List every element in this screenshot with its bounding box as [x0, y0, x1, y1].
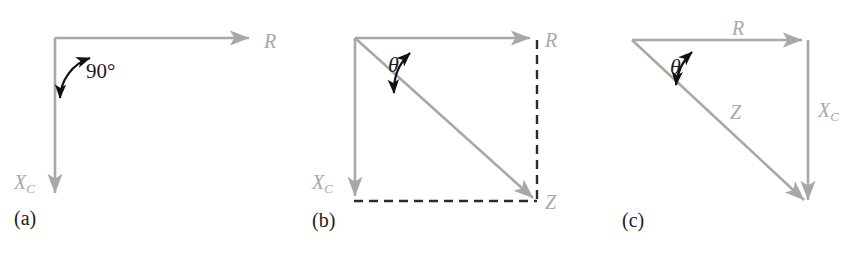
- label-angle-90: 90°: [86, 61, 115, 82]
- caption-a: (a): [14, 208, 36, 228]
- caption-b: (b): [312, 210, 335, 230]
- label-angle-theta: θ: [670, 56, 681, 78]
- label-z: Z: [545, 192, 556, 212]
- panel-c: R XC Z θ (c): [580, 0, 848, 256]
- label-xc: XC: [818, 100, 839, 123]
- label-xc: XC: [14, 172, 35, 195]
- label-r: R: [732, 18, 744, 38]
- label-angle-theta: θ: [388, 54, 399, 76]
- vector-z: [355, 38, 533, 198]
- caption-c: (c): [622, 210, 644, 230]
- label-z: Z: [730, 102, 741, 122]
- vector-z: [632, 40, 804, 200]
- label-r: R: [264, 31, 276, 51]
- panel-b: R XC Z θ (b): [290, 0, 580, 256]
- panel-a-vectors: [0, 0, 290, 256]
- panel-c-vectors: [580, 0, 848, 256]
- label-xc: XC: [312, 172, 333, 195]
- label-r: R: [545, 30, 557, 50]
- panel-a: R XC 90° (a): [0, 0, 290, 256]
- impedance-phasor-figure: R XC 90° (a): [0, 0, 848, 256]
